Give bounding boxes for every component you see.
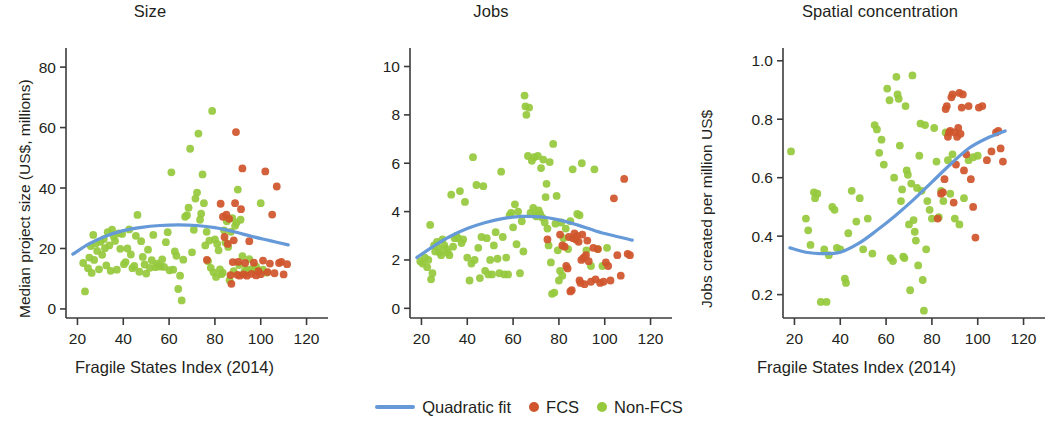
scatter-point	[466, 277, 474, 285]
scatter-point	[926, 206, 934, 214]
x-tick-label: 80	[206, 330, 224, 347]
legend-label-fcs: FCS	[546, 399, 579, 416]
x-axis-label-size: Fragile States Index (2014)	[42, 358, 307, 377]
scatter-point	[520, 248, 528, 256]
scatter-point	[479, 182, 487, 190]
scatter-point	[264, 268, 272, 276]
scatter-point	[568, 286, 576, 294]
scatter-point	[95, 265, 103, 273]
scatter-point	[967, 175, 975, 183]
legend-item-quadratic-fit: Quadratic fit	[375, 399, 511, 416]
scatter-series-fcs	[203, 128, 291, 288]
scatter-point	[89, 231, 97, 239]
scatter-point	[904, 171, 912, 179]
scatter-point	[959, 90, 967, 98]
scatter-point	[456, 187, 464, 195]
scatter-point	[997, 145, 1005, 153]
scatter-point	[228, 280, 236, 288]
scatter-point	[965, 102, 973, 110]
scatter-point	[239, 164, 247, 172]
scatter-point	[950, 199, 958, 207]
scatter-point	[135, 268, 143, 276]
x-tick-label: 80	[550, 330, 568, 347]
scatter-point	[179, 256, 187, 264]
scatter-point	[802, 215, 810, 223]
scatter-point	[245, 237, 253, 245]
fcs-dot-swatch	[529, 402, 539, 412]
scatter-point	[522, 111, 530, 119]
scatter-point	[122, 258, 130, 266]
scatter-point	[915, 152, 923, 160]
scatter-point	[185, 204, 193, 212]
scatter-point	[550, 289, 558, 297]
scatter-series-non-fcs	[416, 92, 611, 298]
scatter-point	[469, 153, 477, 161]
scatter-point	[890, 174, 898, 182]
scatter-point	[164, 228, 172, 236]
scatter-point	[518, 217, 526, 225]
scatter-point	[902, 102, 910, 110]
x-tick-label: 40	[115, 330, 133, 347]
scatter-point	[956, 221, 964, 229]
scatter-point	[549, 140, 557, 148]
scatter-point	[813, 190, 821, 198]
scatter-point	[919, 276, 927, 284]
scatter-point	[960, 166, 968, 174]
scatter-point	[544, 225, 552, 233]
scatter-point	[883, 85, 891, 93]
scatter-point	[137, 237, 145, 245]
scatter-point	[546, 158, 554, 166]
scatter-point	[521, 92, 529, 100]
scatter-point	[607, 277, 615, 285]
scatter-point	[149, 231, 157, 239]
y-tick-label: 0.6	[751, 169, 773, 186]
scatter-point	[230, 236, 238, 244]
y-tick-label: 8	[391, 106, 400, 123]
plot-area-spatial-concentration: 0.20.40.60.81.020406080100120	[700, 0, 1058, 350]
scatter-series-fcs	[934, 89, 1007, 241]
scatter-point	[203, 256, 211, 264]
scatter-point	[957, 130, 965, 138]
scatter-point	[999, 158, 1007, 166]
scatter-point	[578, 159, 586, 167]
scatter-point	[544, 236, 552, 244]
x-tick-label: 40	[832, 330, 850, 347]
scatter-point	[497, 168, 505, 176]
scatter-point	[237, 216, 245, 224]
scatter-point	[483, 234, 491, 242]
scatter-point	[972, 234, 980, 242]
scatter-point	[543, 180, 551, 188]
scatter-point	[186, 145, 194, 153]
x-tick-label: 20	[413, 330, 431, 347]
scatter-point	[823, 298, 831, 306]
scatter-point	[922, 245, 930, 253]
scatter-point	[511, 200, 519, 208]
scatter-point	[787, 147, 795, 155]
scatter-point	[257, 199, 265, 207]
scatter-point	[873, 126, 881, 134]
scatter-point	[594, 245, 602, 253]
scatter-point	[583, 237, 591, 245]
scatter-point	[426, 221, 434, 229]
figure-panel-group: Size Median project size (US$, millions)…	[0, 0, 1058, 423]
scatter-point	[197, 210, 205, 218]
scatter-point	[852, 218, 860, 226]
scatter-point	[569, 165, 577, 173]
non-fcs-dot-swatch	[597, 402, 607, 412]
scatter-point	[537, 164, 545, 172]
y-tick-label: 60	[39, 119, 57, 136]
x-tick-label: 120	[294, 330, 320, 347]
scatter-point	[437, 251, 445, 259]
scatter-point	[90, 256, 98, 264]
scatter-point	[604, 262, 612, 270]
legend-label-non-fcs: Non-FCS	[614, 399, 683, 416]
scatter-point	[208, 107, 216, 115]
scatter-point	[859, 245, 867, 253]
scatter-point	[174, 285, 182, 293]
scatter-point	[514, 208, 522, 216]
scatter-point	[447, 191, 455, 199]
scatter-point	[807, 241, 815, 249]
y-tick-label: 6	[391, 155, 400, 172]
x-tick-label: 20	[69, 330, 87, 347]
scatter-point	[617, 272, 625, 280]
